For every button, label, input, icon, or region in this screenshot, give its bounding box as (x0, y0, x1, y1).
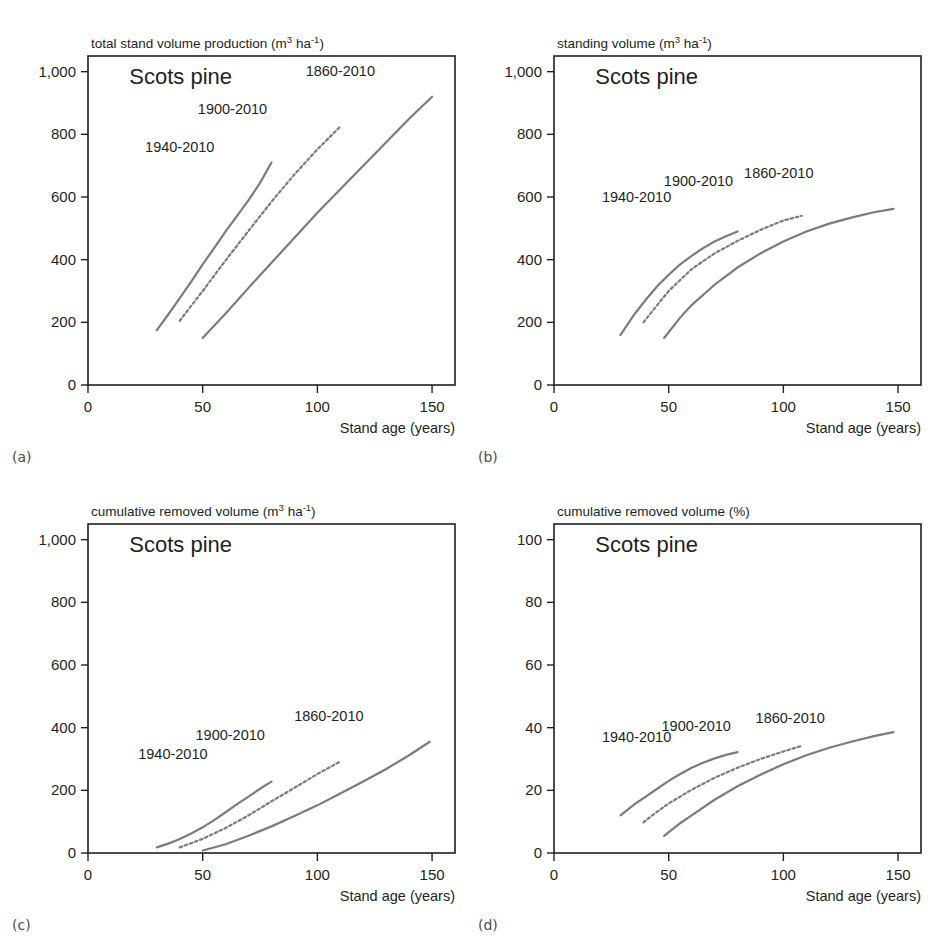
x-tick-label: 100 (771, 398, 796, 415)
x-tick-label: 100 (305, 398, 330, 415)
y-tick-label: 200 (51, 313, 76, 330)
y-tick-label: 400 (517, 251, 542, 268)
series-label-1860-2010: 1860-2010 (306, 63, 375, 79)
axis-title-text: ha (292, 36, 311, 51)
plot-frame (554, 56, 921, 385)
axis-title-text: total stand volume production (m (91, 36, 287, 51)
series-curve-1940-2010 (621, 752, 738, 815)
axis-title-text: ha (284, 504, 303, 519)
series-label-1900-2010: 1900-2010 (662, 718, 731, 734)
panel-letter: (b) (478, 449, 498, 465)
panel-b: 02004006008001,000050100150standing volu… (466, 0, 932, 468)
y-tick-label: 1,000 (38, 63, 76, 80)
x-tick-label: 150 (886, 866, 911, 883)
y-tick-label: 40 (525, 719, 542, 736)
species-label: Scots pine (595, 532, 698, 557)
panel-letter: (c) (12, 917, 31, 933)
panel-d: 020406080100050100150cumulative removed … (466, 468, 932, 936)
series-label-1860-2010: 1860-2010 (756, 710, 825, 726)
y-tick-label: 400 (51, 251, 76, 268)
y-tick-label: 800 (517, 125, 542, 142)
y-tick-label: 0 (68, 844, 76, 861)
panel-b-svg: 02004006008001,000050100150standing volu… (466, 0, 932, 468)
plot-frame (554, 524, 921, 853)
x-tick-label: 150 (886, 398, 911, 415)
x-tick-label: 50 (660, 866, 677, 883)
y-tick-label: 600 (51, 188, 76, 205)
series-label-1860-2010: 1860-2010 (744, 165, 813, 181)
series-label-1900-2010: 1900-2010 (664, 173, 733, 189)
x-tick-label: 0 (84, 866, 92, 883)
series-label-1900-2010: 1900-2010 (198, 101, 267, 117)
x-tick-label: 150 (420, 398, 445, 415)
panel-axis-title: cumulative removed volume (m3 ha-1) (91, 502, 316, 520)
panel-a-content: 02004006008001,000050100150total stand v… (12, 34, 455, 466)
series-label-1860-2010: 1860-2010 (294, 708, 363, 724)
series-label-1940-2010: 1940-2010 (138, 746, 207, 762)
y-tick-label: 1,000 (38, 531, 76, 548)
y-tick-label: 60 (525, 656, 542, 673)
series-curve-1900-2010 (180, 762, 341, 848)
y-tick-label: 600 (517, 188, 542, 205)
panel-a-svg: 02004006008001,000050100150total stand v… (0, 0, 466, 468)
y-tick-label: 80 (525, 593, 542, 610)
axis-title-superscript: -1 (303, 502, 311, 513)
x-axis-label: Stand age (years) (340, 888, 455, 904)
axis-title-superscript: -1 (699, 34, 707, 45)
axis-title-text: ) (311, 504, 316, 519)
series-label-1940-2010: 1940-2010 (602, 189, 671, 205)
y-tick-label: 200 (51, 781, 76, 798)
panel-letter: (a) (12, 449, 32, 465)
panel-a: 02004006008001,000050100150total stand v… (0, 0, 466, 468)
series-curve-1940-2010 (157, 163, 272, 331)
y-tick-label: 600 (51, 656, 76, 673)
x-tick-label: 0 (84, 398, 92, 415)
y-tick-label: 200 (517, 313, 542, 330)
x-axis-label: Stand age (years) (806, 420, 921, 436)
x-tick-label: 100 (305, 866, 330, 883)
y-tick-label: 800 (51, 125, 76, 142)
series-curve-1860-2010 (664, 732, 893, 836)
x-tick-label: 150 (420, 866, 445, 883)
axis-title-superscript: -1 (311, 34, 319, 45)
panel-c-svg: 02004006008001,000050100150cumulative re… (0, 468, 466, 936)
y-tick-label: 800 (51, 593, 76, 610)
series-curve-1900-2010 (643, 216, 801, 323)
axis-title-text: ) (707, 36, 712, 51)
panel-axis-title: total stand volume production (m3 ha-1) (91, 34, 324, 52)
series-curve-1900-2010 (643, 746, 801, 822)
x-tick-label: 50 (660, 398, 677, 415)
series-curve-1940-2010 (157, 782, 272, 848)
species-label: Scots pine (129, 532, 232, 557)
x-tick-label: 50 (194, 866, 211, 883)
panel-letter: (d) (478, 917, 498, 933)
x-tick-label: 0 (550, 398, 558, 415)
series-label-1940-2010: 1940-2010 (145, 139, 214, 155)
species-label: Scots pine (595, 64, 698, 89)
panel-d-svg: 020406080100050100150cumulative removed … (466, 468, 932, 936)
series-curve-1860-2010 (203, 742, 430, 851)
axis-title-text: ) (319, 36, 324, 51)
y-tick-label: 0 (68, 376, 76, 393)
y-tick-label: 400 (51, 719, 76, 736)
series-curve-1860-2010 (664, 209, 893, 338)
axis-title-text: ha (680, 36, 699, 51)
panel-axis-title: cumulative removed volume (%) (557, 504, 750, 519)
plot-frame (88, 524, 455, 853)
plot-frame (88, 56, 455, 385)
y-tick-label: 0 (534, 376, 542, 393)
x-axis-label: Stand age (years) (806, 888, 921, 904)
panel-b-content: 02004006008001,000050100150standing volu… (478, 34, 921, 466)
x-tick-label: 50 (194, 398, 211, 415)
y-tick-label: 100 (517, 531, 542, 548)
figure-scots-pine-volume-panels: 02004006008001,000050100150total stand v… (0, 0, 932, 936)
axis-title-text: cumulative removed volume (m (91, 504, 279, 519)
panel-d-content: 020406080100050100150cumulative removed … (478, 504, 921, 933)
series-label-1900-2010: 1900-2010 (196, 727, 265, 743)
y-tick-label: 1,000 (504, 63, 542, 80)
panel-c-content: 02004006008001,000050100150cumulative re… (12, 502, 455, 934)
y-tick-label: 20 (525, 781, 542, 798)
species-label: Scots pine (129, 64, 232, 89)
axis-title-text: cumulative removed volume (%) (557, 504, 750, 519)
panel-axis-title: standing volume (m3 ha-1) (557, 34, 712, 52)
